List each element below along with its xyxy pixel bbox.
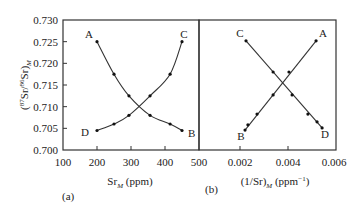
series-line-d-c bbox=[97, 42, 182, 131]
endmember-label-c: C bbox=[180, 28, 187, 40]
data-point bbox=[127, 94, 130, 97]
data-point bbox=[314, 39, 317, 42]
x-tick-label: 0.006 bbox=[322, 156, 347, 168]
x-tick-label: 100 bbox=[55, 156, 72, 168]
x-tick-label: 300 bbox=[123, 156, 140, 168]
data-point bbox=[180, 129, 183, 132]
x-tick-label: 400 bbox=[157, 156, 174, 168]
endmember-label-c: C bbox=[236, 27, 243, 39]
data-point bbox=[112, 122, 115, 125]
data-point bbox=[148, 114, 151, 117]
endmember-label-b: B bbox=[237, 130, 244, 142]
endmember-label-a: A bbox=[85, 28, 93, 40]
series-line-b-a bbox=[245, 41, 316, 130]
data-point bbox=[95, 40, 98, 43]
data-point bbox=[272, 70, 275, 73]
y-tick-label: 0.725 bbox=[33, 36, 58, 48]
y-tick-label: 0.720 bbox=[33, 57, 58, 69]
data-point bbox=[169, 73, 172, 76]
data-point bbox=[95, 129, 98, 132]
mixing-chart: 1002003004005000.7000.7050.7100.7150.720… bbox=[0, 0, 358, 210]
data-point bbox=[148, 94, 151, 97]
y-tick-label: 0.710 bbox=[33, 101, 58, 113]
data-point bbox=[255, 112, 258, 115]
data-point bbox=[272, 93, 275, 96]
data-point bbox=[169, 122, 172, 125]
y-tick-label: 0.700 bbox=[33, 144, 58, 156]
data-point bbox=[290, 93, 293, 96]
data-point bbox=[315, 120, 318, 123]
data-point bbox=[127, 114, 130, 117]
y-tick-label: 0.715 bbox=[33, 79, 58, 91]
series-line-a-b bbox=[97, 42, 182, 131]
endmember-label-b: B bbox=[188, 127, 195, 139]
panel-a-label: (a) bbox=[62, 190, 75, 203]
data-point bbox=[306, 112, 309, 115]
panel-b-series: BACD bbox=[236, 27, 329, 142]
data-point bbox=[244, 39, 247, 42]
data-point bbox=[112, 73, 115, 76]
y-axis-label: (87Sr/86Sr)M bbox=[18, 59, 33, 110]
panel-b-label: (b) bbox=[205, 183, 218, 196]
x-tick-label: 0.002 bbox=[228, 156, 253, 168]
panel-b-axis: 0.0020.0040.006 bbox=[228, 146, 347, 168]
x-axis-label-a: SrM (ppm) bbox=[107, 175, 153, 190]
data-point bbox=[246, 123, 249, 126]
y-tick-label: 0.705 bbox=[33, 122, 58, 134]
panel-a-series: ABDC bbox=[81, 28, 195, 139]
x-tick-label: 0.004 bbox=[276, 156, 301, 168]
data-point bbox=[287, 70, 290, 73]
x-tick-label: 200 bbox=[89, 156, 106, 168]
x-tick-label: 500 bbox=[191, 156, 208, 168]
x-axis-label-b: (1/Sr)M (ppm−1) bbox=[241, 175, 310, 190]
endmember-label-d: D bbox=[81, 126, 89, 138]
y-tick-label: 0.730 bbox=[33, 14, 58, 26]
endmember-label-a: A bbox=[319, 27, 327, 39]
data-point bbox=[180, 40, 183, 43]
endmember-label-d: D bbox=[321, 128, 329, 140]
